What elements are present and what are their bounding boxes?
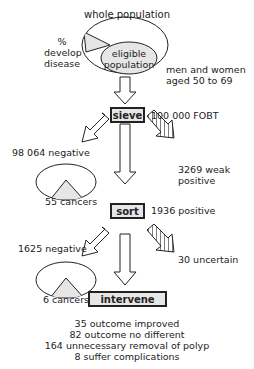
sieve-negative-label: 98 064 negative [12, 147, 90, 158]
sort-count: 1936 positive [151, 205, 215, 216]
disease-label-pct: % [44, 36, 80, 47]
down-arrow-icon [114, 124, 136, 184]
outcome-3: 164 unnecessary removal of polyp [0, 340, 254, 351]
down-arrow-icon [114, 77, 136, 104]
right-down-hatched-arrow-icon [147, 224, 174, 252]
sieve-weak-positive-2: positive [178, 175, 215, 186]
outcome-1: 35 outcome improved [0, 318, 254, 329]
sieve-negative-ellipse [36, 164, 96, 200]
eligible-desc-2: aged 50 to 69 [166, 75, 233, 86]
sort-uncertain-label: 30 uncertain [178, 254, 238, 265]
outcome-2: 82 outcome no different [0, 329, 254, 340]
sort-negative-label: 1625 negative [18, 243, 87, 254]
eligible-label-2: population [101, 59, 157, 70]
sieve-negative-cancers: 55 cancers [45, 196, 97, 207]
eligible-label-1: eligible [101, 48, 157, 59]
sieve-count: 100 000 FOBT [151, 110, 219, 121]
eligible-desc-1: men and women [166, 64, 246, 75]
left-down-arrow-icon [82, 113, 109, 142]
sieve-box: sieve [110, 107, 145, 123]
outcome-4: 8 suffer complications [0, 351, 254, 362]
disease-label-develop: develop [44, 47, 80, 58]
disease-label-disease: disease [44, 58, 80, 69]
intervene-box: intervene [88, 291, 167, 307]
sort-negative-cancers: 6 cancers [43, 294, 89, 305]
sort-negative-ellipse [36, 262, 96, 298]
sieve-weak-positive-1: 3269 weak [178, 164, 230, 175]
whole-population-title: whole population [84, 9, 170, 20]
sort-box: sort [110, 203, 145, 219]
down-arrow-icon [114, 234, 136, 285]
